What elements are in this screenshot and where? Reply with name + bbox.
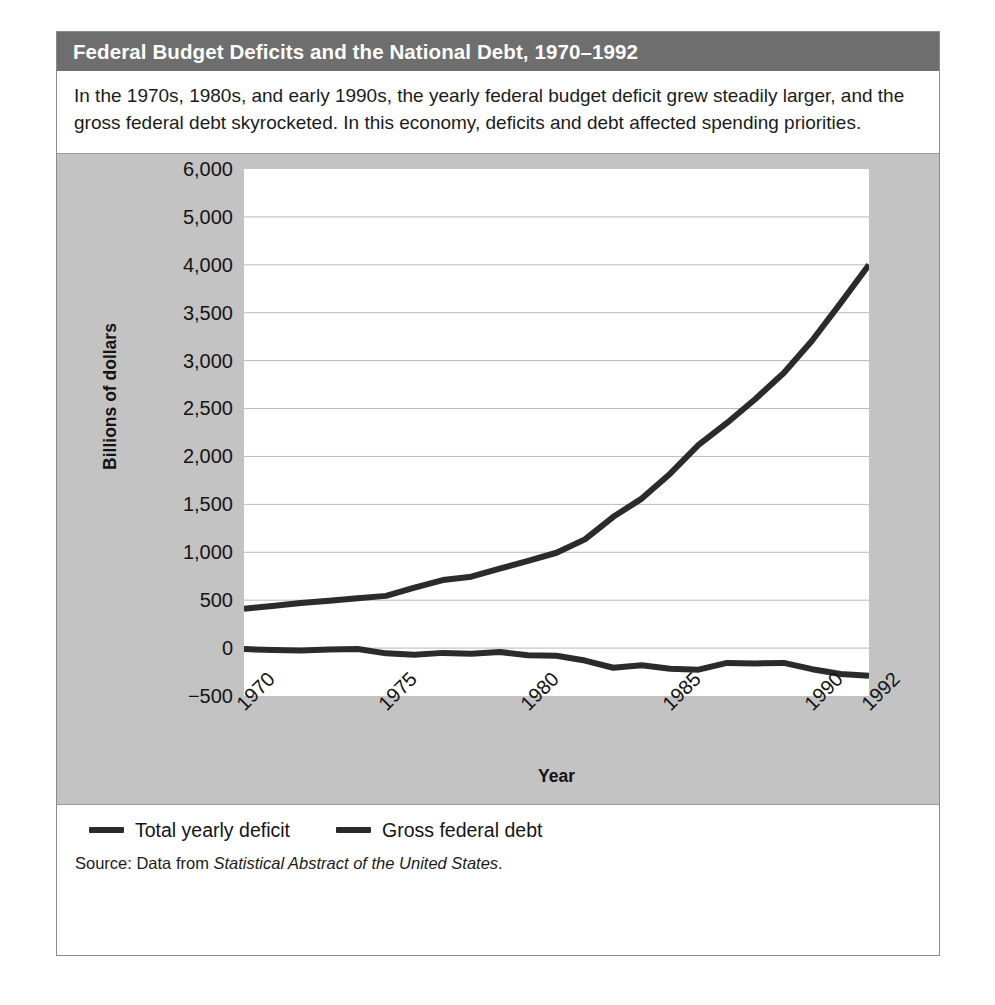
source-prefix: Source: Data from [75,854,213,872]
y-tick-label: 2,000 [183,445,233,468]
y-tick-label: 6,000 [183,157,233,180]
figure-title-bar: Federal Budget Deficits and the National… [57,32,939,71]
series-line-debt [244,265,869,609]
y-tick-label: 4,000 [183,253,233,276]
figure-container: Federal Budget Deficits and the National… [56,31,940,956]
y-axis-tick-labels: 6,0005,0004,0003,5003,0002,5002,0001,500… [117,169,239,696]
legend-label-deficit: Total yearly deficit [135,819,290,842]
y-tick-label: 5,000 [183,205,233,228]
chart-panel: Billions of dollars 6,0005,0004,0003,500… [57,153,939,805]
chart-legend: Total yearly deficit Gross federal debt [57,805,939,846]
source-publication-title: Statistical Abstract of the United State… [213,854,498,872]
legend-label-debt: Gross federal debt [382,819,542,842]
source-suffix: . [498,854,503,872]
chart-series-lines [244,169,869,696]
figure-caption: In the 1970s, 1980s, and early 1990s, th… [57,71,939,145]
x-axis-tick-labels: 197019751980198519901992 [244,699,869,769]
y-tick-label: 1,500 [183,493,233,516]
y-tick-label: 3,000 [183,349,233,372]
legend-item-debt: Gross federal debt [336,819,542,842]
series-line-deficit [244,649,869,676]
figure-source: Source: Data from Statistical Abstract o… [57,846,939,873]
legend-line-swatch-deficit [89,827,124,833]
legend-line-swatch-debt [336,827,371,833]
y-tick-label: 1,000 [183,541,233,564]
x-axis-title: Year [244,766,869,787]
figure-title: Federal Budget Deficits and the National… [73,40,638,64]
plot-area [244,169,869,696]
y-tick-label: 0 [222,637,233,660]
y-tick-label: 500 [200,589,233,612]
y-tick-label: −500 [188,684,233,707]
y-tick-label: 2,500 [183,397,233,420]
legend-item-deficit: Total yearly deficit [89,819,290,842]
y-tick-label: 3,500 [183,301,233,324]
